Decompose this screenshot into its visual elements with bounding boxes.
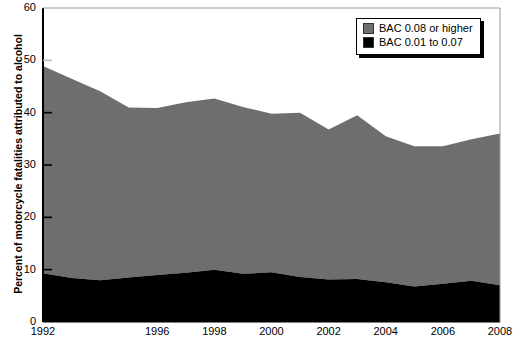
x-tick-label: 2004: [366, 325, 406, 337]
legend-swatch-icon: [363, 23, 374, 34]
x-tick-label: 2006: [423, 325, 463, 337]
y-tick-label: 60: [12, 1, 36, 13]
y-tick-label: 20: [12, 210, 36, 222]
x-tick-label: 2008: [480, 325, 513, 337]
x-tick-label: 1998: [194, 325, 234, 337]
y-tick-label: 50: [12, 53, 36, 65]
legend-item: BAC 0.01 to 0.07: [363, 36, 473, 50]
legend-label: BAC 0.01 to 0.07: [379, 36, 463, 50]
y-tick-label: 40: [12, 106, 36, 118]
x-tick-label: 2000: [252, 325, 292, 337]
legend-label: BAC 0.08 or higher: [379, 22, 473, 36]
legend-swatch-icon: [363, 37, 374, 48]
x-tick-label: 2002: [309, 325, 349, 337]
x-tick-label: 1992: [23, 325, 63, 337]
y-tick-label: 10: [12, 263, 36, 275]
area-bac-08-or-higher: [43, 66, 500, 286]
legend-item: BAC 0.08 or higher: [363, 22, 473, 36]
x-tick-label: 1996: [137, 325, 177, 337]
chart-figure: Percent of motorcycle fatalities attribu…: [0, 0, 513, 349]
chart-legend: BAC 0.08 or higher BAC 0.01 to 0.07: [356, 18, 481, 55]
y-tick-label: 30: [12, 158, 36, 170]
